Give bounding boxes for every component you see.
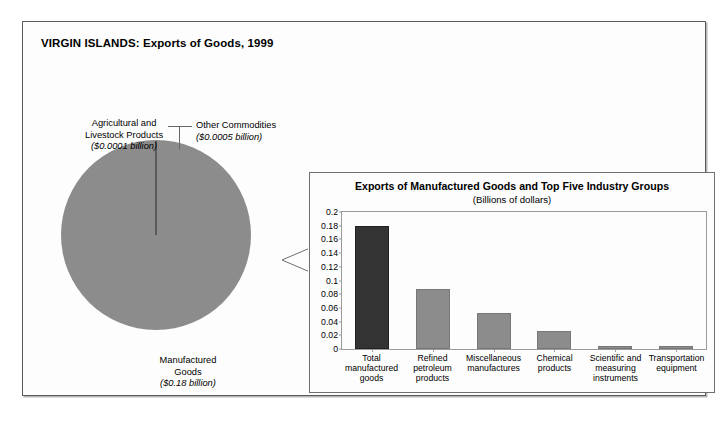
y-axis-tick-label: 0.1 (308, 276, 342, 286)
y-axis-tick-label: 0.2 (308, 207, 342, 217)
x-axis-labels: TotalmanufacturedgoodsRefinedpetroleumpr… (341, 353, 707, 384)
bar-2 (416, 289, 450, 349)
x-axis-tick-mark (554, 349, 555, 352)
pie-label-manufactured-line2: Goods (108, 367, 268, 379)
x-axis-label-5: Scientific andmeasuringinstruments (585, 353, 646, 384)
y-axis-tick-label: 0 (308, 344, 342, 354)
y-axis-tick-label: 0.06 (308, 303, 342, 313)
x-axis-label-1: Totalmanufacturedgoods (341, 353, 402, 384)
pie-label-other-commodities: Other Commodities ($0.0005 billion) (196, 120, 276, 143)
pie-label-other-line1: Other Commodities (196, 120, 276, 132)
inset-bar-chart-panel: Exports of Manufactured Goods and Top Fi… (309, 172, 715, 393)
pie-leader-line (179, 126, 180, 150)
pie-label-agricultural-line1: Agricultural and (85, 118, 163, 130)
y-axis-tick-label: 0.08 (308, 289, 342, 299)
x-axis-label-line: manufactures (463, 363, 524, 373)
bar-slot (463, 212, 523, 349)
y-axis-tick-label: 0.14 (308, 248, 342, 258)
x-axis-label-line: Miscellaneous (463, 353, 524, 363)
x-axis-tick-mark (676, 349, 677, 352)
bar-slot (585, 212, 645, 349)
x-axis-label-4: Chemicalproducts (524, 353, 585, 384)
bar-slot (403, 212, 463, 349)
callout-pointer-icon (281, 247, 311, 273)
bar-series (342, 212, 706, 349)
pie-label-agricultural-line2: Livestock Products (85, 130, 163, 142)
x-axis-label-line: petroleum (402, 363, 463, 373)
pie-chart (61, 140, 251, 330)
x-axis-label-line: instruments (585, 373, 646, 383)
y-axis-tick-label: 0.16 (308, 234, 342, 244)
y-axis-tick-label: 0.12 (308, 262, 342, 272)
x-axis-label-line: Refined (402, 353, 463, 363)
y-axis-tick-label: 0.18 (308, 221, 342, 231)
inset-chart-title: Exports of Manufactured Goods and Top Fi… (310, 180, 714, 192)
x-axis-label-6: Transportationequipment (646, 353, 707, 384)
x-axis-label-line: Total (341, 353, 402, 363)
figure-outer-frame: VIRGIN ISLANDS: Exports of Goods, 1999 A… (22, 21, 706, 396)
figure-title: VIRGIN ISLANDS: Exports of Goods, 1999 (41, 37, 274, 49)
x-axis-label-line: goods (341, 373, 402, 383)
pie-slice-minor-commodities (155, 141, 157, 235)
x-axis-label-line: products (524, 363, 585, 373)
pie-label-agricultural: Agricultural and Livestock Products ($0.… (85, 118, 163, 153)
x-axis-tick-mark (494, 349, 495, 352)
pie-leader-tick (168, 126, 192, 127)
y-axis-tick-label: 0.02 (308, 330, 342, 340)
x-axis-label-line: products (402, 373, 463, 383)
bar-slot (342, 212, 402, 349)
pie-label-other-value: ($0.0005 billion) (196, 132, 262, 142)
inset-chart-subtitle: (Billions of dollars) (310, 194, 714, 205)
pie-label-agricultural-value: ($0.0001 billion) (91, 141, 157, 151)
pie-label-manufactured-line1: Manufactured (108, 355, 268, 367)
bar-slot (524, 212, 584, 349)
pie-label-manufactured-value: ($0.18 billion) (160, 378, 216, 388)
x-axis-label-line: manufactured (341, 363, 402, 373)
y-axis-tick-label: 0.04 (308, 317, 342, 327)
x-axis-label-2: Refinedpetroleumproducts (402, 353, 463, 384)
x-axis-label-line: equipment (646, 363, 707, 373)
x-axis-tick-mark (615, 349, 616, 352)
bar-slot (645, 212, 705, 349)
pie-label-manufactured-goods: Manufactured Goods ($0.18 billion) (108, 355, 268, 390)
x-axis-label-line: measuring (585, 363, 646, 373)
x-axis-label-3: Miscellaneousmanufactures (463, 353, 524, 384)
x-axis-label-line: Transportation (646, 353, 707, 363)
figure-canvas: VIRGIN ISLANDS: Exports of Goods, 1999 A… (0, 0, 728, 421)
bar-chart-plot-area: 00.020.040.060.080.10.120.140.160.180.2 (341, 211, 707, 350)
x-axis-tick-mark (372, 349, 373, 352)
x-axis-tick-mark (433, 349, 434, 352)
x-axis-label-line: Chemical (524, 353, 585, 363)
bar-1 (355, 226, 389, 349)
x-axis-label-line: Scientific and (585, 353, 646, 363)
bar-4 (537, 331, 571, 349)
bar-3 (477, 313, 511, 349)
